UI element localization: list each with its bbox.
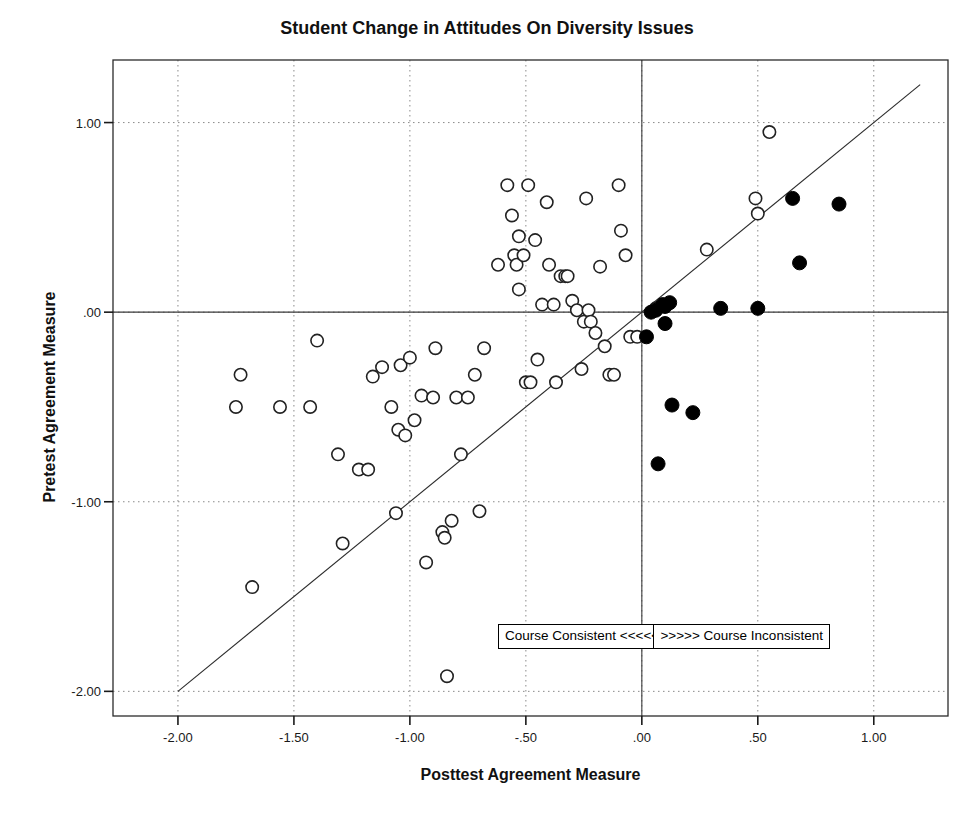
data-point-s0-74 xyxy=(752,207,764,219)
data-point-s0-22 xyxy=(429,342,441,354)
data-point-s0-63 xyxy=(599,340,611,352)
filled-circle-points-group xyxy=(639,191,846,470)
data-point-s0-6 xyxy=(332,448,344,460)
data-point-s1-8 xyxy=(665,398,679,412)
y-tick-label-3: -2.00 xyxy=(53,684,101,699)
data-point-s0-66 xyxy=(612,179,624,191)
x-tick-label-1: -1.50 xyxy=(279,730,309,745)
x-tick-label-5: .50 xyxy=(749,730,767,745)
data-point-s0-50 xyxy=(550,376,562,388)
data-point-s1-7 xyxy=(663,296,677,310)
course-inconsistent-box: >>>>> Course Inconsistent xyxy=(653,624,829,649)
data-point-s0-45 xyxy=(531,353,543,365)
identity-reference-line xyxy=(178,85,920,692)
y-tick-label-2: -1.00 xyxy=(53,494,101,509)
data-point-s0-30 xyxy=(469,369,481,381)
data-point-s0-27 xyxy=(450,391,462,403)
data-point-s0-7 xyxy=(336,537,348,549)
data-point-s0-1 xyxy=(230,401,242,413)
data-point-s0-49 xyxy=(547,298,559,310)
data-point-s0-65 xyxy=(608,369,620,381)
identity-line xyxy=(178,85,920,692)
data-point-s0-9 xyxy=(362,463,374,475)
data-point-s1-3 xyxy=(651,457,665,471)
data-point-s0-62 xyxy=(594,260,606,272)
data-point-s1-0 xyxy=(639,330,653,344)
data-point-s0-21 xyxy=(427,391,439,403)
data-point-s1-14 xyxy=(832,197,846,211)
course-consistent-box: Course Consistent <<<<< xyxy=(498,624,666,649)
data-point-s0-33 xyxy=(492,259,504,271)
data-point-s0-32 xyxy=(478,342,490,354)
data-point-s0-0 xyxy=(234,369,246,381)
data-point-s0-44 xyxy=(529,234,541,246)
data-point-s0-40 xyxy=(517,249,529,261)
data-point-s0-48 xyxy=(543,259,555,271)
chart-figure: Student Change in Attitudes On Diversity… xyxy=(0,0,974,814)
data-point-s0-34 xyxy=(501,179,513,191)
x-tick-label-2: -1.00 xyxy=(395,730,425,745)
data-point-s0-73 xyxy=(749,192,761,204)
data-point-s0-55 xyxy=(571,304,583,316)
data-point-s0-20 xyxy=(420,556,432,568)
data-point-s0-19 xyxy=(415,389,427,401)
data-point-s0-53 xyxy=(561,270,573,282)
data-point-s0-25 xyxy=(441,670,453,682)
data-point-s0-35 xyxy=(506,209,518,221)
data-point-s0-75 xyxy=(763,126,775,138)
data-point-s0-11 xyxy=(376,361,388,373)
data-point-s0-60 xyxy=(585,315,597,327)
data-point-s0-24 xyxy=(438,532,450,544)
y-tick-label-1: .00 xyxy=(53,305,101,320)
data-point-s0-42 xyxy=(522,179,534,191)
x-tick-label-0: -2.00 xyxy=(163,730,193,745)
x-tick-label-4: .00 xyxy=(633,730,651,745)
data-point-s1-6 xyxy=(658,317,672,331)
data-point-s0-18 xyxy=(408,414,420,426)
data-point-s0-38 xyxy=(513,230,525,242)
data-point-s0-3 xyxy=(274,401,286,413)
data-point-s0-56 xyxy=(575,363,587,375)
data-point-s1-10 xyxy=(714,301,728,315)
data-point-s0-5 xyxy=(311,334,323,346)
data-point-s0-16 xyxy=(399,429,411,441)
data-point-s0-47 xyxy=(541,196,553,208)
data-point-s0-61 xyxy=(589,327,601,339)
data-point-s0-39 xyxy=(513,283,525,295)
scatter-plot-canvas xyxy=(0,0,974,814)
data-point-s0-10 xyxy=(367,370,379,382)
data-point-s0-12 xyxy=(385,401,397,413)
data-point-s0-4 xyxy=(304,401,316,413)
data-point-s0-68 xyxy=(619,249,631,261)
data-point-s0-17 xyxy=(404,351,416,363)
x-tick-label-3: -.50 xyxy=(515,730,537,745)
data-point-s0-58 xyxy=(580,192,592,204)
data-point-s1-13 xyxy=(793,256,807,270)
data-point-s0-26 xyxy=(445,515,457,527)
data-point-s0-72 xyxy=(701,243,713,255)
data-point-s1-9 xyxy=(686,406,700,420)
data-point-s0-28 xyxy=(455,448,467,460)
data-point-s1-12 xyxy=(786,191,800,205)
x-tick-label-6: 1.00 xyxy=(861,730,886,745)
y-tick-label-0: 1.00 xyxy=(53,115,101,130)
data-point-s1-11 xyxy=(751,301,765,315)
data-point-s0-31 xyxy=(473,505,485,517)
data-point-s0-67 xyxy=(615,224,627,236)
data-point-s0-13 xyxy=(390,507,402,519)
data-point-s0-43 xyxy=(524,376,536,388)
data-point-s0-2 xyxy=(246,581,258,593)
data-point-s0-59 xyxy=(582,304,594,316)
data-point-s0-46 xyxy=(536,298,548,310)
data-point-s0-29 xyxy=(462,391,474,403)
open-circle-points-group xyxy=(230,126,776,683)
